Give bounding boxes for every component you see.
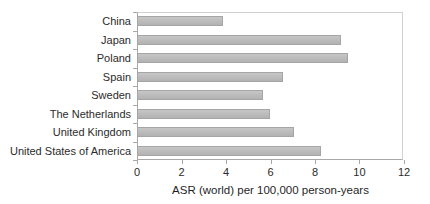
y-axis-tick: [133, 12, 137, 13]
bar-track: [137, 49, 403, 68]
x-axis-tick: [404, 160, 405, 164]
category-label-spain: Spain: [0, 71, 136, 83]
bar-track: [137, 31, 403, 50]
bar-track: [137, 123, 403, 142]
y-axis-tick: [133, 68, 137, 69]
bar-united-kingdom: [137, 127, 294, 137]
y-axis-tick: [133, 142, 137, 143]
chart-row-united-states-of-america: United States of America: [0, 142, 430, 161]
category-label-sweden: Sweden: [0, 89, 136, 101]
chart-row-sweden: Sweden: [0, 86, 430, 105]
bar-chart-figure: ChinaJapanPolandSpainSwedenThe Netherlan…: [0, 0, 430, 204]
category-label-united-kingdom: United Kingdom: [0, 126, 136, 138]
bar-track: [137, 105, 403, 124]
category-label-united-states-of-america: United States of America: [0, 145, 136, 157]
category-label-china: China: [0, 15, 136, 27]
y-axis-tick: [133, 160, 137, 161]
y-axis-tick: [133, 105, 137, 106]
x-axis-tick-label: 10: [353, 166, 365, 178]
bar-track: [137, 68, 403, 87]
chart-row-china: China: [0, 12, 430, 31]
category-label-japan: Japan: [0, 34, 136, 46]
bar-track: [137, 142, 403, 161]
x-axis-tick: [359, 160, 360, 164]
x-axis-tick: [315, 160, 316, 164]
bar-spain: [137, 72, 283, 82]
x-axis-tick-label: 8: [312, 166, 318, 178]
x-axis-tick: [137, 160, 138, 164]
bar-the-netherlands: [137, 109, 270, 119]
y-axis-tick: [133, 86, 137, 87]
chart-rows: ChinaJapanPolandSpainSwedenThe Netherlan…: [0, 12, 430, 160]
x-axis-tick: [226, 160, 227, 164]
x-axis-tick-label: 2: [178, 166, 184, 178]
bar-track: [137, 86, 403, 105]
x-axis-tick-label: 12: [398, 166, 410, 178]
bar-japan: [137, 35, 341, 45]
x-axis-title: ASR (world) per 100,000 person-years: [137, 184, 404, 196]
x-axis-tick-label: 0: [134, 166, 140, 178]
chart-row-spain: Spain: [0, 68, 430, 87]
bar-track: [137, 12, 403, 31]
chart-row-japan: Japan: [0, 31, 430, 50]
chart-row-poland: Poland: [0, 49, 430, 68]
category-label-poland: Poland: [0, 52, 136, 64]
x-axis-tick: [182, 160, 183, 164]
bar-china: [137, 16, 223, 26]
chart-row-the-netherlands: The Netherlands: [0, 105, 430, 124]
x-axis-tick: [271, 160, 272, 164]
bar-united-states-of-america: [137, 146, 321, 156]
x-axis-tick-label: 6: [267, 166, 273, 178]
y-axis-tick: [133, 31, 137, 32]
y-axis-tick: [133, 123, 137, 124]
y-axis-tick: [133, 49, 137, 50]
category-label-the-netherlands: The Netherlands: [0, 108, 136, 120]
x-axis-tick-label: 4: [223, 166, 229, 178]
bar-poland: [137, 53, 348, 63]
bar-sweden: [137, 90, 263, 100]
chart-row-united-kingdom: United Kingdom: [0, 123, 430, 142]
